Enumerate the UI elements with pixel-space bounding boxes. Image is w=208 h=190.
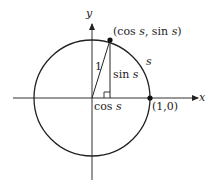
sin-label: sin s bbox=[113, 68, 139, 81]
point-cos-sin bbox=[107, 37, 112, 42]
unit-circle-diagram: y x (cos s, sin s) 1 s sin s cos s (1,0) bbox=[0, 0, 208, 190]
cos-label: cos s bbox=[94, 100, 122, 113]
unit-point-label: (1,0) bbox=[152, 100, 178, 113]
point-label: (cos s, sin s) bbox=[113, 25, 182, 38]
x-axis-label: x bbox=[199, 91, 206, 104]
right-angle-marker bbox=[104, 92, 110, 98]
arc-label: s bbox=[146, 55, 152, 68]
radius-label: 1 bbox=[95, 60, 102, 73]
y-axis-label: y bbox=[85, 7, 93, 20]
